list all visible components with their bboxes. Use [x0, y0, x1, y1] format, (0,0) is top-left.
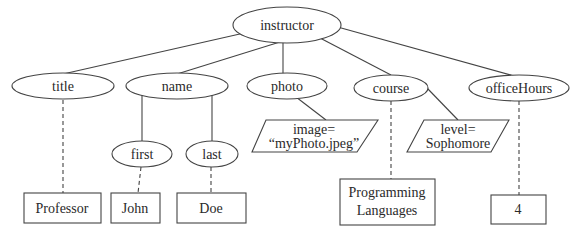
- node-doe: Doe: [177, 193, 246, 223]
- node-doe-label: Doe: [199, 201, 222, 216]
- image-attribute-line2: “myPhoto.jpeg”: [269, 136, 360, 151]
- node-image-attribute: image= “myPhoto.jpeg”: [252, 120, 378, 152]
- node-john: John: [111, 193, 160, 223]
- level-attribute-line1: level=: [440, 122, 475, 137]
- node-level-attribute: level= Sophomore: [407, 120, 509, 152]
- node-professor: Professor: [24, 193, 101, 223]
- node-last-label: last: [202, 147, 222, 162]
- node-title: title: [12, 73, 114, 99]
- node-programming-line2: Languages: [357, 203, 418, 218]
- node-programming-line1: Programming: [349, 185, 426, 200]
- node-officehours: officeHours: [469, 75, 569, 101]
- node-instructor-label: instructor: [260, 18, 314, 33]
- node-last: last: [186, 141, 238, 167]
- node-programming-languages: Programming Languages: [340, 179, 435, 225]
- edge-course-level: [427, 88, 458, 120]
- node-instructor: instructor: [233, 7, 341, 43]
- node-first-label: first: [131, 147, 154, 162]
- edge-instructor-course: [320, 38, 391, 75]
- node-title-label: title: [52, 79, 74, 94]
- xml-tree-diagram: instructor title name photo course offic…: [0, 0, 575, 231]
- node-officehours-label: officeHours: [486, 81, 553, 96]
- node-john-label: John: [122, 201, 148, 216]
- node-course: course: [354, 75, 428, 101]
- node-four-label: 4: [515, 202, 522, 217]
- node-photo: photo: [247, 73, 327, 99]
- node-name: name: [126, 73, 228, 99]
- level-attribute-line2: Sophomore: [426, 136, 491, 151]
- edge-photo-image: [296, 97, 326, 120]
- image-attribute-line1: image=: [293, 122, 335, 137]
- node-professor-label: Professor: [36, 201, 89, 216]
- edge-first-john: [138, 167, 141, 193]
- edge-instructor-officehours: [334, 26, 518, 77]
- node-first: first: [112, 141, 172, 167]
- node-four: 4: [491, 195, 546, 224]
- node-name-label: name: [162, 79, 192, 94]
- node-photo-label: photo: [271, 79, 303, 94]
- node-course-label: course: [373, 81, 410, 96]
